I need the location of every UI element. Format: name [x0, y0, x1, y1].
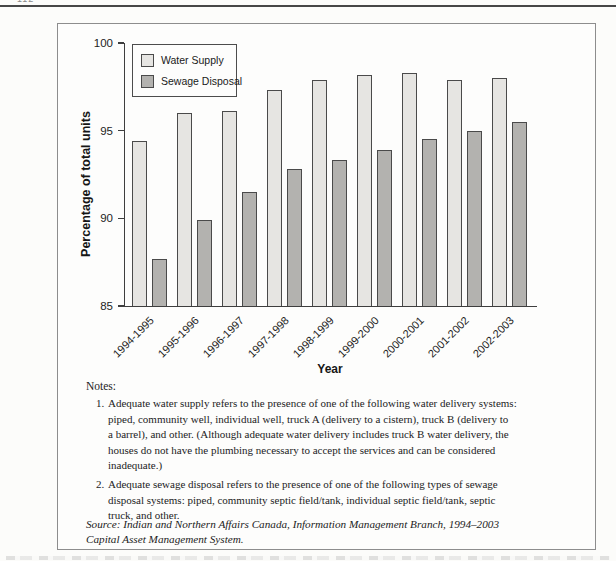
note-item-1: 1. Adequate water supply refers to the p…: [96, 396, 517, 474]
bar-sewage-disposal-1994-1995: [152, 259, 167, 306]
bar-water-supply-1998-1999: [312, 80, 327, 306]
bar-water-supply-1995-1996: [177, 113, 192, 306]
x-tick-label: 1995-1996: [156, 314, 202, 360]
y-tick-label: 95: [83, 125, 113, 137]
legend-item-water-supply: Water Supply: [141, 54, 236, 67]
legend-swatch-sewage-disposal: [141, 75, 154, 88]
x-tick-label: 1996-1997: [201, 314, 247, 360]
page-top-rule: [0, 5, 616, 7]
cropped-text-artifact: [6, 556, 610, 560]
bar-water-supply-2000-2001: [402, 73, 417, 306]
legend-label: Sewage Disposal: [161, 75, 242, 87]
bar-water-supply-1994-1995: [132, 141, 147, 306]
bar-water-supply-2002-2003: [492, 78, 507, 306]
figure-box: Percentage of total units 1994-19951995-…: [57, 23, 596, 550]
bar-water-supply-1996-1997: [222, 111, 237, 306]
y-tick-mark: [118, 218, 124, 220]
source-citation: Source: Indian and Northern Affairs Cana…: [86, 517, 499, 547]
note-text: Adequate water supply refers to the pres…: [108, 396, 517, 474]
bar-sewage-disposal-1995-1996: [197, 220, 212, 306]
x-tick-label: 2000-2001: [381, 314, 427, 360]
y-tick-label: 85: [83, 300, 113, 312]
page-number-text: 112: [17, 0, 61, 4]
bar-sewage-disposal-1997-1998: [287, 169, 302, 306]
x-tick-label: 1994-1995: [111, 314, 157, 360]
bar-water-supply-2001-2002: [447, 80, 462, 306]
bar-water-supply-1997-1998: [267, 90, 282, 306]
bar-sewage-disposal-2000-2001: [422, 139, 437, 306]
x-tick-label: 2001-2002: [426, 314, 472, 360]
y-tick-label: 100: [83, 37, 113, 49]
x-tick-label: 1999-2000: [336, 314, 382, 360]
bar-sewage-disposal-2002-2003: [512, 122, 527, 306]
x-tick-label: 2002-2003: [471, 314, 517, 360]
bar-sewage-disposal-2001-2002: [467, 131, 482, 306]
legend-label: Water Supply: [161, 54, 224, 66]
legend-item-sewage-disposal: Sewage Disposal: [141, 75, 236, 88]
notes-heading: Notes:: [86, 380, 116, 392]
bar-sewage-disposal-1999-2000: [377, 150, 392, 306]
y-tick-mark: [118, 42, 124, 44]
bar-water-supply-1999-2000: [357, 75, 372, 306]
note-number: 1.: [96, 396, 108, 474]
y-tick-mark: [118, 305, 124, 307]
x-tick-label: 1997-1998: [246, 314, 292, 360]
bar-sewage-disposal-1998-1999: [332, 160, 347, 306]
legend-swatch-water-supply: [141, 54, 154, 67]
x-tick-label: 1998-1999: [291, 314, 337, 360]
y-tick-label: 90: [83, 212, 113, 224]
x-axis-title: Year: [124, 362, 536, 376]
y-tick-mark: [118, 130, 124, 132]
page-number-fragment: 112: [17, 0, 61, 4]
bar-sewage-disposal-1996-1997: [242, 192, 257, 306]
chart-legend: Water SupplySewage Disposal: [132, 44, 237, 97]
